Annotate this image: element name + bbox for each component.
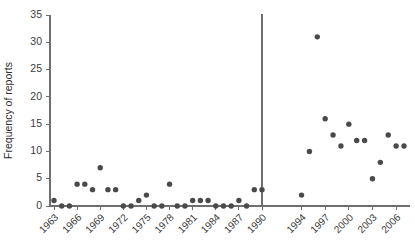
y-axis-tick-label: 20	[30, 90, 42, 102]
x-axis-tick-label: 1963	[37, 211, 61, 235]
data-point	[144, 192, 149, 197]
y-axis-tick-label: 15	[30, 117, 42, 129]
data-point	[159, 203, 164, 208]
data-point	[74, 181, 79, 186]
data-point	[51, 198, 56, 203]
y-axis-tick-label: 30	[30, 35, 42, 47]
x-axis-tick-label: 2003	[355, 211, 379, 235]
y-axis-tick-label: 5	[36, 171, 42, 183]
x-axis-tick-label: 1997	[308, 211, 332, 235]
data-point	[167, 181, 172, 186]
data-point	[175, 203, 180, 208]
x-axis-tick-label: 2000	[332, 211, 356, 235]
y-axis-tick-label: 35	[30, 8, 42, 20]
data-point	[386, 132, 391, 137]
data-point	[307, 149, 312, 154]
data-point	[370, 176, 375, 181]
x-axis-tick-label: 1981	[176, 211, 200, 235]
data-point	[338, 143, 343, 148]
data-point	[236, 198, 241, 203]
data-point	[401, 143, 406, 148]
frequency-of-reports-scatter-chart: 0510152025303519631966196919721975197819…	[0, 0, 415, 247]
data-point	[244, 203, 249, 208]
x-axis-tick-label: 1990	[245, 211, 269, 235]
y-axis-tick-label: 0	[36, 199, 42, 211]
data-point	[315, 34, 320, 39]
data-point	[299, 192, 304, 197]
x-axis-tick-label: 1972	[106, 211, 130, 235]
y-axis-tick-label: 10	[30, 144, 42, 156]
x-axis-tick-label: 1978	[152, 211, 176, 235]
data-point	[82, 181, 87, 186]
data-point	[393, 143, 398, 148]
x-axis-tick-label: 1969	[83, 211, 107, 235]
data-point	[213, 203, 218, 208]
data-point	[330, 132, 335, 137]
data-point	[98, 165, 103, 170]
x-axis-tick-label: 1975	[129, 211, 153, 235]
data-point	[90, 187, 95, 192]
data-point	[322, 116, 327, 121]
data-point	[113, 187, 118, 192]
y-axis-tick-label: 25	[30, 62, 42, 74]
data-point	[362, 138, 367, 143]
x-axis-tick-label: 1984	[199, 211, 223, 235]
data-point	[354, 138, 359, 143]
data-point	[198, 198, 203, 203]
chart-canvas: 0510152025303519631966196919721975197819…	[0, 0, 415, 247]
x-axis-tick-label: 1994	[284, 211, 308, 235]
data-point	[121, 203, 126, 208]
data-point	[182, 203, 187, 208]
x-axis-tick-label: 2006	[379, 211, 403, 235]
data-point	[190, 198, 195, 203]
data-point	[378, 160, 383, 165]
data-point	[228, 203, 233, 208]
x-axis-tick-label: 1966	[60, 211, 84, 235]
data-point	[67, 203, 72, 208]
y-axis-title: Frequency of reports	[2, 62, 14, 159]
data-point	[346, 121, 351, 126]
data-point	[136, 198, 141, 203]
data-point	[128, 203, 133, 208]
data-point	[259, 187, 264, 192]
data-point	[252, 187, 257, 192]
data-point	[151, 203, 156, 208]
data-point	[105, 187, 110, 192]
data-point	[59, 203, 64, 208]
data-point	[205, 198, 210, 203]
data-point	[221, 203, 226, 208]
x-axis-tick-label: 1987	[222, 211, 246, 235]
data-point-series	[51, 34, 406, 209]
